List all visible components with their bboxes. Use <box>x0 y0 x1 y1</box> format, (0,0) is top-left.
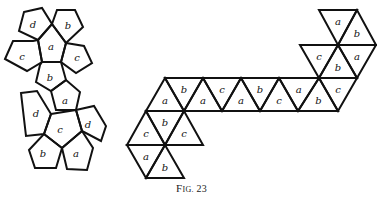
pentagon-face: d <box>19 8 52 40</box>
triangle-face: a <box>127 145 165 178</box>
triangle-face: b <box>298 78 338 111</box>
pentagon-face: b <box>36 62 66 91</box>
triangle-net: abcbaabacabcabccbcab <box>127 10 376 178</box>
pentagon-face-label: d <box>85 119 91 130</box>
triangle-face: c <box>319 78 357 111</box>
figure-23: dbaccbadcdba abcbaabacabcabccbcab <box>0 0 377 199</box>
triangle-face-label: a <box>296 84 302 95</box>
triangle-face: c <box>127 111 165 145</box>
pentagon-face: a <box>62 131 93 170</box>
pentagon-face-label: d <box>33 108 39 119</box>
triangle-face-label: a <box>354 51 360 62</box>
pentagon-face-label: c <box>57 124 63 135</box>
triangle-face-label: c <box>143 128 149 139</box>
triangle-face: c <box>300 45 338 78</box>
triangle-face-label: a <box>162 95 168 106</box>
triangle-face: c <box>260 78 298 111</box>
triangle-face-label: b <box>315 95 321 106</box>
triangle-face: b <box>319 45 357 78</box>
caption-text: FIG. 23 <box>176 182 207 194</box>
triangle-face-label: a <box>200 95 206 106</box>
triangle-face-label: c <box>276 95 282 106</box>
pentagon-face-label: a <box>73 148 79 159</box>
triangle-face: c <box>165 111 203 145</box>
triangle-face-label: c <box>316 51 322 62</box>
triangle-face-label: b <box>162 117 168 128</box>
triangle-face: a <box>319 10 357 45</box>
pentagon-face-outline <box>44 110 82 148</box>
triangle-face-label: c <box>219 84 225 95</box>
triangle-face-label: b <box>354 28 360 39</box>
triangle-face-label: b <box>335 62 341 73</box>
triangle-face: b <box>241 78 279 111</box>
pentagon-face-label: c <box>19 51 25 62</box>
triangle-face: a <box>146 78 184 111</box>
pentagon-face-label: a <box>62 95 68 106</box>
triangle-face: b <box>146 145 184 178</box>
pentagon-face: c <box>61 43 92 73</box>
triangle-face-label: b <box>257 84 263 95</box>
pentagon-face-label: b <box>40 148 46 159</box>
pentagon-face: a <box>51 80 80 110</box>
pentagon-face-label: b <box>65 20 71 31</box>
pentagon-face: c <box>5 40 42 71</box>
pentagon-face: b <box>52 10 83 43</box>
triangle-face-label: a <box>335 16 341 27</box>
triangle-face: c <box>203 78 241 111</box>
triangle-face: a <box>222 78 260 111</box>
triangle-face-label: a <box>238 95 244 106</box>
triangle-face: a <box>184 78 222 111</box>
pentagon-net: dbaccbadcdba <box>5 8 106 170</box>
pentagon-face: d <box>76 106 106 141</box>
triangle-face-label: a <box>143 151 149 162</box>
pentagon-face-label: d <box>30 19 36 30</box>
triangle-face-label: c <box>181 128 187 139</box>
pentagon-face-label: c <box>74 52 80 63</box>
triangle-face: a <box>279 78 319 111</box>
pentagon-face: b <box>29 134 62 168</box>
triangle-face: b <box>338 10 376 45</box>
pentagon-face-label: b <box>47 72 53 83</box>
triangle-face-label: b <box>162 162 168 173</box>
triangle-face-label: b <box>181 84 187 95</box>
triangle-face: b <box>146 111 184 145</box>
pentagon-face-label: a <box>48 41 54 52</box>
triangle-face: a <box>338 45 376 78</box>
pentagon-face: c <box>44 110 82 148</box>
triangle-face: b <box>165 78 203 111</box>
triangle-face-label: c <box>335 84 341 95</box>
